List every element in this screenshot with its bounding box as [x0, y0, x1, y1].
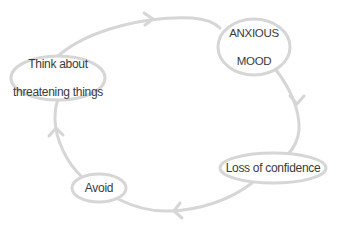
edge-loss-to-avoid: [118, 183, 252, 211]
node-loss-line1: Loss of confidence: [226, 161, 321, 175]
edge-anxious-to-loss: [276, 70, 299, 154]
node-anxious-line2: MOOD: [229, 54, 279, 68]
node-think-line1: Think about: [13, 57, 103, 71]
node-loss-of-confidence: Loss of confidence: [222, 160, 324, 176]
node-avoid: Avoid: [74, 180, 124, 196]
cycle-diagram: [0, 0, 339, 229]
node-anxious-mood: ANXIOUS MOOD: [220, 26, 288, 68]
node-avoid-line1: Avoid: [85, 181, 113, 195]
arrowhead-right-icon: [290, 96, 304, 104]
node-think-line2: threatening things: [13, 85, 103, 99]
node-anxious-line1: ANXIOUS: [229, 26, 279, 40]
node-think-about-threatening-things: Think about threatening things: [11, 58, 105, 98]
